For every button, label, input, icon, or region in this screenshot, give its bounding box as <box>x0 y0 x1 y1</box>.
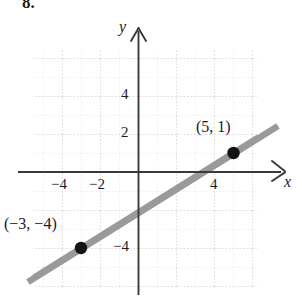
coordinate-plane <box>0 0 302 297</box>
x-axis-label: x <box>284 173 291 191</box>
grid-lines <box>33 49 257 288</box>
y-tick-label-neg4: −4 <box>113 238 129 255</box>
y-tick-label-2: 2 <box>121 124 129 141</box>
point-label-5-1: (5, 1) <box>196 118 231 136</box>
data-point-neg3-neg4 <box>75 242 87 254</box>
y-tick-label-4: 4 <box>121 86 129 103</box>
point-label-neg3-neg4: (−3, −4) <box>4 215 57 233</box>
data-point-5-1 <box>227 147 239 159</box>
x-tick-label-neg4: −4 <box>51 176 67 193</box>
x-tick-label-neg2: −2 <box>89 176 105 193</box>
y-axis-label: y <box>119 18 126 36</box>
graph-figure: 8. <box>0 0 302 297</box>
x-tick-label-4: 4 <box>210 176 218 193</box>
